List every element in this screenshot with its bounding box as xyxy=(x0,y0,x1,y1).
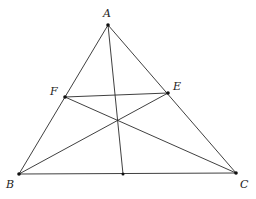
point-e xyxy=(166,91,170,95)
side-ac xyxy=(108,25,236,173)
side-ab xyxy=(19,25,108,174)
label-e: E xyxy=(172,80,181,93)
label-f: F xyxy=(49,85,58,98)
cevian-be xyxy=(19,93,168,174)
label-a: A xyxy=(102,7,111,20)
triangle-diagram: A B C E F xyxy=(0,0,256,199)
point-b xyxy=(17,172,21,176)
point-c xyxy=(234,171,238,175)
point-f xyxy=(63,95,67,99)
point-a xyxy=(106,23,110,27)
side-bc xyxy=(19,173,236,174)
segment-fe xyxy=(65,93,168,97)
cevian-ad xyxy=(108,25,123,174)
label-b: B xyxy=(5,178,14,191)
label-c: C xyxy=(240,178,249,191)
point-d xyxy=(122,173,125,176)
